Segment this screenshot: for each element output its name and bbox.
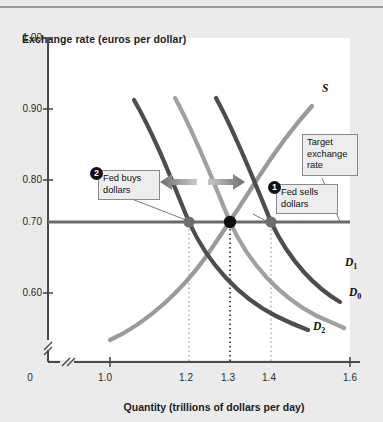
callout-fed-buys: Fed buys dollars: [98, 170, 160, 200]
callout-fed-buys-text: Fed buys dollars: [103, 173, 141, 195]
exchange-rate-figure: Exchange rate (euros per dollar) 1.00 0.…: [0, 10, 383, 422]
curve-label-supply: S: [322, 82, 328, 94]
curve-label-D0-sub: 0: [357, 292, 361, 301]
marker-badge-2: 2: [90, 167, 103, 180]
curve-label-D2: D2: [313, 320, 325, 335]
curve-label-D1: D1: [345, 256, 357, 271]
equilibrium-dot-fed-sells: [265, 216, 276, 227]
chart-svg-layer: [0, 10, 383, 422]
curve-label-D2-sub: 2: [321, 326, 325, 335]
shift-arrow-right: [208, 174, 245, 190]
equilibrium-dot-fed-buys: [183, 216, 194, 227]
curve-label-D1-sub: 1: [353, 262, 357, 271]
callout-target-rate-text: Target exchange rate: [307, 137, 347, 170]
marker-badge-1: 1: [268, 181, 281, 194]
callout-fed-sells-text: Fed sells dollars: [281, 187, 318, 209]
curve-label-D0: D0: [349, 286, 361, 301]
demand-curve-D2: [134, 100, 308, 330]
callout-fed-sells: Fed sells dollars: [276, 184, 338, 214]
callout-target-exchange-rate: Target exchange rate: [302, 134, 358, 176]
equilibrium-dot-initial: [224, 216, 236, 228]
top-divider-rule: [0, 6, 383, 8]
shift-arrow-left: [160, 174, 197, 190]
